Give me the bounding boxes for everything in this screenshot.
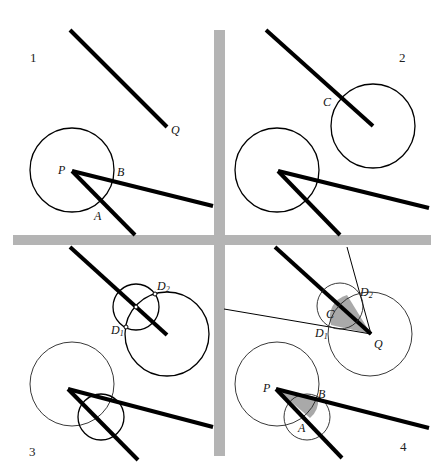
label-c: C	[323, 95, 332, 109]
ray-pb	[278, 171, 429, 208]
circle-p	[30, 342, 114, 426]
label-d2: D2	[359, 285, 373, 300]
panel-number-2: 2	[399, 50, 406, 65]
label-q: Q	[374, 337, 383, 351]
label-p: P	[262, 381, 271, 395]
point-c	[134, 305, 138, 309]
label-a: A	[297, 421, 306, 435]
ray-pb	[68, 389, 213, 427]
panel-3: D2 D1 3	[29, 247, 213, 460]
ray-pb	[72, 171, 213, 206]
panel-number-4: 4	[400, 439, 407, 454]
panel-4: D2 C D1 Q P B A 4	[224, 247, 429, 458]
construction-diagram: 1 Q P B A 2 C D2 D1 3	[0, 0, 446, 475]
label-d2: D2	[156, 279, 170, 294]
circle-p	[235, 342, 319, 426]
segment-q	[266, 30, 373, 126]
panel-2: 2 C	[235, 30, 429, 235]
horizontal-separator	[13, 235, 431, 245]
label-d1: D1	[314, 326, 328, 341]
label-c: C	[326, 307, 335, 321]
segment-q	[70, 30, 167, 127]
label-p: P	[57, 163, 66, 177]
point-d1	[124, 325, 128, 329]
panel-number-3: 3	[29, 444, 36, 459]
label-b: B	[318, 387, 326, 401]
label-b: B	[117, 165, 125, 179]
label-q: Q	[171, 123, 180, 137]
label-a: A	[93, 209, 102, 223]
panel-1: 1 Q P B A	[30, 30, 213, 235]
panel-number-1: 1	[30, 50, 37, 65]
